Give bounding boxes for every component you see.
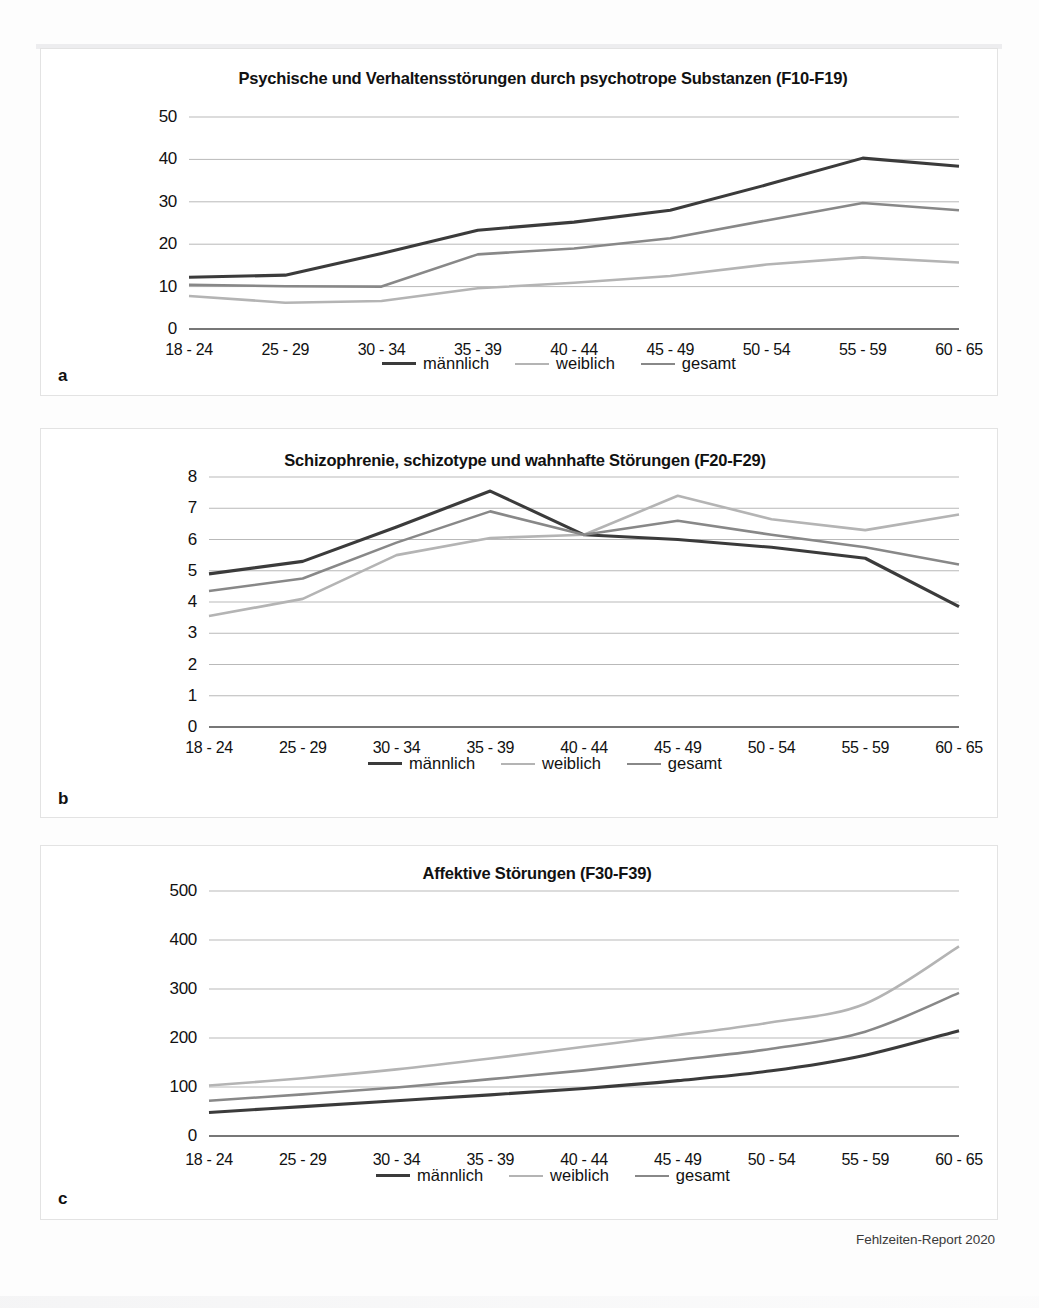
- y-axis-tick-label: 500: [139, 881, 197, 901]
- x-axis-tick-label: 60 - 65: [935, 341, 983, 359]
- panel-letter-b: b: [58, 789, 68, 809]
- legend-swatch-maennlich: [382, 362, 416, 365]
- series-line-weiblich: [189, 257, 959, 302]
- y-axis-tick-label: 30: [119, 192, 177, 212]
- x-axis-tick-label: 60 - 65: [935, 1151, 983, 1169]
- scan-artifact-bottom: [0, 1296, 1039, 1308]
- plot-svg-a: [189, 117, 959, 329]
- x-axis-tick-label: 45 - 49: [654, 1151, 702, 1169]
- x-axis-tick-label: 40 - 44: [550, 341, 598, 359]
- x-axis-tick-label: 30 - 34: [373, 739, 421, 757]
- legend-swatch-gesamt: [635, 1175, 669, 1177]
- x-axis-tick-label: 50 - 54: [748, 739, 796, 757]
- y-axis-tick-label: 8: [139, 467, 197, 487]
- x-axis-tick-label: 35 - 39: [466, 1151, 514, 1169]
- x-axis-tick-label: 55 - 59: [841, 1151, 889, 1169]
- plot-svg-c: [209, 891, 959, 1136]
- series-line-gesamt: [209, 511, 959, 591]
- series-line-weiblich: [209, 946, 959, 1085]
- chart-panel-a: Psychische und Verhaltensstörungen durch…: [40, 48, 998, 396]
- y-axis-tick-label: 40: [119, 149, 177, 169]
- x-axis-tick-label: 35 - 39: [454, 341, 502, 359]
- x-axis-tick-label: 25 - 29: [279, 1151, 327, 1169]
- y-axis-tick-label: 4: [139, 592, 197, 612]
- y-axis-tick-label: 0: [139, 1126, 197, 1146]
- chart-panel-b: Schizophrenie, schizotype und wahnhafte …: [40, 428, 998, 818]
- y-axis-tick-label: 6: [139, 530, 197, 550]
- series-line-gesamt: [189, 203, 959, 287]
- y-axis-tick-label: 0: [139, 717, 197, 737]
- x-axis-tick-label: 60 - 65: [935, 739, 983, 757]
- x-axis-tick-label: 18 - 24: [165, 341, 213, 359]
- y-axis-tick-label: 5: [139, 561, 197, 581]
- x-axis-tick-label: 40 - 44: [560, 1151, 608, 1169]
- figure-page: Psychische und Verhaltensstörungen durch…: [0, 0, 1039, 1308]
- x-axis-tick-label: 45 - 49: [654, 739, 702, 757]
- legend-swatch-weiblich: [509, 1175, 543, 1177]
- plot-area-b: [209, 477, 959, 727]
- plot-area-c: [209, 891, 959, 1136]
- legend-swatch-gesamt: [641, 363, 675, 365]
- x-axis-tick-label: 25 - 29: [279, 739, 327, 757]
- y-axis-tick-label: 7: [139, 498, 197, 518]
- y-axis-tick-label: 300: [139, 979, 197, 999]
- y-axis-tick-label: 10: [119, 277, 177, 297]
- x-axis-tick-label: 45 - 49: [646, 341, 694, 359]
- x-axis-tick-label: 18 - 24: [185, 1151, 233, 1169]
- chart-panel-c: Affektive Störungen (F30-F39) männlich w…: [40, 845, 998, 1220]
- y-axis-tick-label: 1: [139, 686, 197, 706]
- legend-swatch-maennlich: [368, 762, 402, 765]
- legend-swatch-weiblich: [501, 763, 535, 765]
- y-axis-tick-label: 200: [139, 1028, 197, 1048]
- y-axis-tick-label: 400: [139, 930, 197, 950]
- y-axis-tick-label: 0: [119, 319, 177, 339]
- x-axis-tick-label: 50 - 54: [743, 341, 791, 359]
- x-axis-tick-label: 40 - 44: [560, 739, 608, 757]
- y-axis-tick-label: 20: [119, 234, 177, 254]
- panel-letter-c: c: [58, 1189, 67, 1209]
- plot-svg-b: [209, 477, 959, 727]
- x-axis-tick-label: 55 - 59: [839, 341, 887, 359]
- y-axis-tick-label: 3: [139, 623, 197, 643]
- y-axis-tick-label: 100: [139, 1077, 197, 1097]
- plot-area-a: [189, 117, 959, 329]
- x-axis-tick-label: 30 - 34: [373, 1151, 421, 1169]
- x-axis-tick-label: 55 - 59: [841, 739, 889, 757]
- legend-swatch-gesamt: [627, 763, 661, 765]
- x-axis-tick-label: 25 - 29: [261, 341, 309, 359]
- x-axis-tick-label: 50 - 54: [748, 1151, 796, 1169]
- chart-title-a: Psychische und Verhaltensstörungen durch…: [41, 69, 1021, 88]
- y-axis-tick-label: 50: [119, 107, 177, 127]
- legend-swatch-weiblich: [515, 363, 549, 365]
- x-axis-tick-label: 18 - 24: [185, 739, 233, 757]
- x-axis-tick-label: 30 - 34: [358, 341, 406, 359]
- x-axis-tick-label: 35 - 39: [466, 739, 514, 757]
- legend-swatch-maennlich: [376, 1174, 410, 1177]
- y-axis-tick-label: 2: [139, 655, 197, 675]
- source-note: Fehlzeiten-Report 2020: [856, 1232, 995, 1247]
- panel-letter-a: a: [58, 366, 67, 386]
